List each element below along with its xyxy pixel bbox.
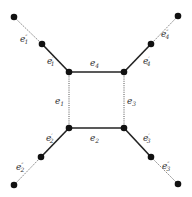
edge-label-e1p: e′1 [47,55,55,67]
vertex-mid_tr [148,41,155,48]
edge-label-e2pp: e″2 [16,161,25,173]
vertex-sq_bl [66,125,73,132]
edge-label-e3pp: e″3 [162,160,171,172]
edge-label-e1pp: e″1 [20,33,28,45]
graph-diagram: e4e2e1e3e′1e′4e′2e′3e″1e″4e″2e″3 [0,0,192,197]
vertex-sq_tr [121,69,128,76]
edge-label-e3: e3 [127,96,136,107]
vertex-sq_tl [66,69,73,76]
vertex-mid_bl [38,154,45,161]
edge-label-e4p: e′4 [143,55,151,67]
vertex-mid_br [148,154,155,161]
vertex-mid_tl [39,41,46,48]
edge-label-e1: e1 [55,96,64,107]
vertex-out_br [175,181,182,188]
edge-label-e3p: e′3 [143,132,151,144]
diagram-svg: e4e2e1e3e′1e′4e′2e′3e″1e″4e″2e″3 [0,0,192,197]
edge-label-e4: e4 [90,58,99,69]
edge-label-e4pp: e″4 [161,28,170,40]
vertex-out_bl [11,182,18,189]
vertex-out_tr [175,13,182,20]
vertex-out_tl [11,14,18,21]
edge-label-e2: e2 [90,133,99,144]
vertex-sq_br [121,125,128,132]
edge-label-e2p: e′2 [46,132,54,144]
